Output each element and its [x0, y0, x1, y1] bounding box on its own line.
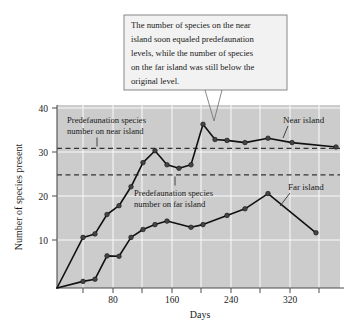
annotation-line: Predefaunation species: [134, 188, 214, 198]
y-tick-label: 30: [39, 148, 49, 158]
x-tick-label: 240: [224, 295, 239, 305]
x-tick-label: 320: [283, 295, 298, 305]
chart-canvas: 40 30 20 10 80 160 240 320 Days Number o…: [0, 0, 350, 330]
callout-line: on the far island was still below the: [131, 62, 254, 72]
annotation-line: Predefaunation species: [67, 115, 147, 125]
series-label-text: Near island: [283, 115, 325, 125]
y-tick-label: 40: [39, 104, 49, 114]
y-tick-label: 20: [39, 192, 49, 202]
callout-line: original level.: [131, 76, 179, 86]
y-tick-label: 10: [39, 236, 49, 246]
y-axis-title: Number of species present: [13, 144, 24, 251]
series-label-text: Far island: [288, 182, 324, 192]
y-tick-labels: 40 30 20 10: [39, 104, 49, 246]
callout-line: island soon equaled predefaunation: [131, 34, 254, 44]
callout-line: The number of species on the near: [131, 20, 251, 30]
x-tick-labels: 80 160 240 320: [108, 295, 297, 305]
x-axis-title: Days: [190, 309, 211, 320]
species-richness-line-chart: 40 30 20 10 80 160 240 320 Days Number o…: [0, 0, 350, 330]
x-tick-label: 80: [108, 295, 118, 305]
annotation-line: number on far island: [134, 199, 206, 209]
callout-line: levels, while the number of species: [131, 48, 254, 58]
x-tick-label: 160: [165, 295, 180, 305]
annotation-line: number on near island: [67, 126, 144, 136]
